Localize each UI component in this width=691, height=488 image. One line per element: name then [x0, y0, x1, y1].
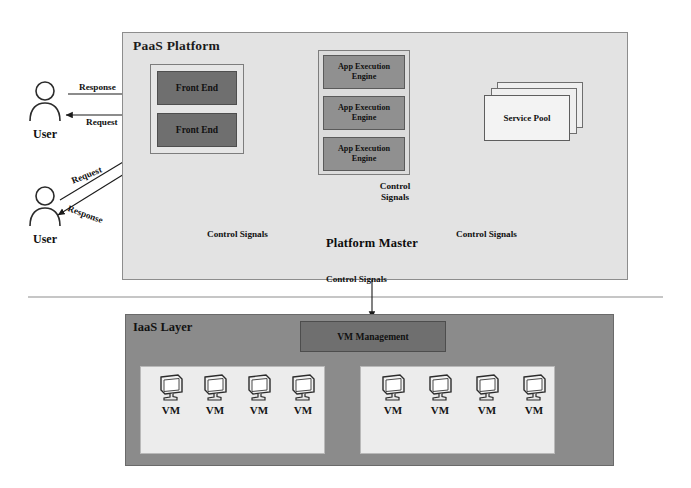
user-icon — [25, 80, 65, 122]
vm-label-left-4: VM — [282, 404, 324, 416]
edge-label-control-left: Control Signals — [207, 229, 268, 239]
vm-label-left-3: VM — [238, 404, 280, 416]
user-icon — [25, 185, 65, 227]
vm-management-box[interactable]: VM Management — [300, 321, 446, 352]
vm-cell-left-3[interactable]: VM — [238, 372, 280, 416]
vm-label-left-2: VM — [194, 404, 236, 416]
front-end-box-1[interactable]: Front End — [157, 71, 237, 105]
platform-master-label[interactable]: Platform Master — [296, 219, 448, 267]
vm-cell-right-1[interactable]: VM — [372, 372, 414, 416]
monitor-icon — [243, 372, 275, 404]
actor-user-1-label: User — [22, 127, 68, 142]
app-execution-engine-2-line1: App Execution — [338, 103, 390, 113]
vm-label-right-3: VM — [466, 404, 508, 416]
vm-label-left-1: VM — [150, 404, 192, 416]
app-execution-engine-3-line1: App Execution — [338, 144, 390, 154]
service-pool-box[interactable]: Service Pool — [484, 95, 570, 141]
vm-cell-right-2[interactable]: VM — [419, 372, 461, 416]
app-execution-engine-1-line2: Engine — [352, 72, 377, 82]
monitor-icon — [518, 372, 550, 404]
actor-user-2-label: User — [22, 232, 68, 247]
app-execution-engine-1[interactable]: App Execution Engine — [323, 55, 405, 89]
edge-label-control-down: Control Signals — [326, 274, 387, 284]
vm-label-right-2: VM — [419, 404, 461, 416]
edge-label-control-up: Control Signals — [372, 181, 418, 202]
app-execution-engine-3-line2: Engine — [352, 154, 377, 164]
actor-user-1[interactable]: User — [22, 80, 68, 142]
monitor-icon — [155, 372, 187, 404]
app-execution-engine-3[interactable]: App Execution Engine — [323, 137, 405, 171]
vm-cell-left-2[interactable]: VM — [194, 372, 236, 416]
app-execution-engine-2-line2: Engine — [352, 113, 377, 123]
vm-label-right-4: VM — [513, 404, 555, 416]
vm-cell-left-1[interactable]: VM — [150, 372, 192, 416]
vm-cell-left-4[interactable]: VM — [282, 372, 324, 416]
edge-label-user1-request: Request — [86, 117, 118, 127]
vm-cell-right-3[interactable]: VM — [466, 372, 508, 416]
app-execution-engine-1-line1: App Execution — [338, 62, 390, 72]
monitor-icon — [287, 372, 319, 404]
edge-label-control-right: Control Signals — [456, 229, 517, 239]
actor-user-2[interactable]: User — [22, 185, 68, 247]
iaas-layer-title: IaaS Layer — [133, 320, 192, 335]
app-execution-engine-2[interactable]: App Execution Engine — [323, 96, 405, 130]
edge-label-user1-response: Response — [79, 82, 116, 92]
vm-cell-right-4[interactable]: VM — [513, 372, 555, 416]
front-end-box-2[interactable]: Front End — [157, 113, 237, 147]
monitor-icon — [377, 372, 409, 404]
monitor-icon — [471, 372, 503, 404]
monitor-icon — [199, 372, 231, 404]
diagram-canvas: PaaS Platform Front End Front End App Ex… — [0, 0, 691, 488]
vm-label-right-1: VM — [372, 404, 414, 416]
monitor-icon — [424, 372, 456, 404]
paas-platform-title: PaaS Platform — [133, 38, 220, 54]
